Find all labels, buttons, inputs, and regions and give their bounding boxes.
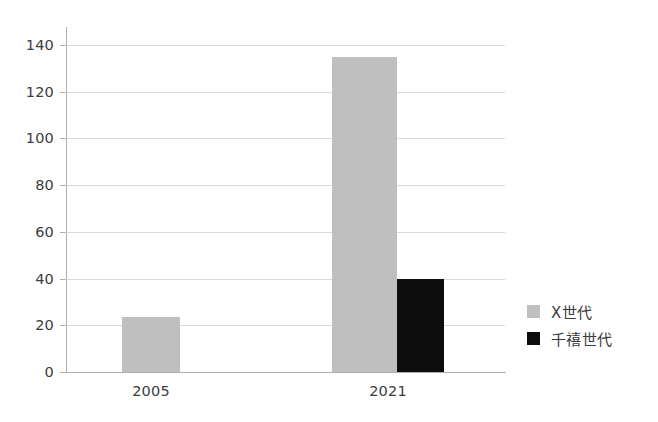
bar-2021-millennials xyxy=(397,279,444,372)
legend-swatch-icon-millennials xyxy=(527,332,540,345)
y-axis-tick-label: 40 xyxy=(35,271,54,287)
legend-item-millennials: 千禧世代 xyxy=(527,325,613,352)
y-axis-tick-label: 120 xyxy=(26,84,54,100)
y-axis-tick-label: 80 xyxy=(35,177,54,193)
bars-group xyxy=(66,27,505,372)
y-axis-tick-label: 20 xyxy=(35,317,54,333)
legend-label-millennials: 千禧世代 xyxy=(551,328,613,349)
legend-swatch-icon-genx xyxy=(527,305,540,318)
legend-label-genx: X世代 xyxy=(551,301,592,322)
y-axis-tick-label: 100 xyxy=(26,130,54,146)
legend-item-genx: X世代 xyxy=(527,298,613,325)
y-axis-tick-label: 0 xyxy=(45,364,54,380)
x-axis-tick-label: 2021 xyxy=(369,383,407,399)
y-axis-tick-label: 60 xyxy=(35,224,54,240)
y-axis-tick xyxy=(60,372,66,373)
bar-2021-genx xyxy=(332,57,397,372)
bar-chart: 020406080100120140 20052021 X世代 千禧世代 xyxy=(0,0,658,422)
legend: X世代 千禧世代 xyxy=(527,298,613,352)
y-axis-tick-label: 140 xyxy=(26,37,54,53)
x-axis-line xyxy=(66,372,506,373)
bar-2005-genx xyxy=(122,317,180,372)
x-axis-tick-label: 2005 xyxy=(132,383,170,399)
